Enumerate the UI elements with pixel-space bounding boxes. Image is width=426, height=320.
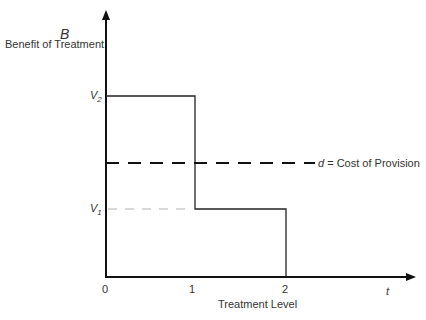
x-tick-2: 2 [282, 283, 288, 295]
x-tick-1: 1 [189, 283, 195, 295]
v1-label: V1 [90, 202, 102, 217]
x-tick-0: 0 [102, 283, 108, 295]
y-axis-title: Benefit of Treatment [5, 38, 104, 50]
benefit-step-line [106, 96, 286, 277]
x-axis-title: Treatment Level [218, 298, 297, 310]
v2-label: V2 [90, 89, 102, 104]
cost-of-provision-label: d = Cost of Provision [318, 157, 420, 169]
x-axis-variable: t [386, 285, 389, 297]
